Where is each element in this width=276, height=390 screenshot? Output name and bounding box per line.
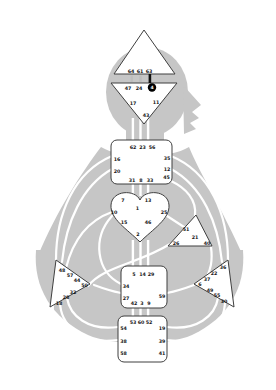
- gate-1: 1: [136, 206, 139, 211]
- gate-44: 44: [74, 278, 81, 283]
- gate-36: 36: [220, 265, 227, 270]
- gate-41: 41: [159, 351, 166, 356]
- gate-58: 58: [120, 351, 127, 356]
- gate-15: 15: [121, 220, 128, 225]
- gate-22: 22: [211, 271, 218, 276]
- gate-16: 16: [114, 157, 121, 162]
- gate-59: 59: [159, 294, 166, 299]
- bodygraph-svg: 64 61 63 47 24 17 11 43 62 23 56 16 35 2…: [0, 0, 276, 390]
- gap-strip-63-4-defined: [149, 74, 152, 83]
- gate-14: 14: [139, 272, 146, 277]
- gate-43: 43: [143, 113, 150, 118]
- gate-21: 21: [192, 235, 199, 240]
- gate-54: 54: [120, 326, 127, 331]
- gate-45: 45: [163, 175, 170, 180]
- gate-53: 53: [130, 320, 137, 325]
- gate-40: 40: [204, 241, 211, 246]
- gate-19: 19: [159, 326, 166, 331]
- gate-29: 29: [148, 272, 155, 277]
- bodygraph-figure: 64 61 63 47 24 17 11 43 62 23 56 16 35 2…: [0, 0, 276, 390]
- gate-11: 11: [153, 100, 160, 105]
- gate-17: 17: [130, 101, 137, 106]
- gate-60: 60: [138, 320, 145, 325]
- gate-46: 46: [145, 220, 152, 225]
- gate-10: 10: [111, 210, 118, 215]
- gate-24: 24: [136, 86, 143, 91]
- gate-7: 7: [121, 198, 124, 203]
- gate-61: 61: [137, 69, 144, 74]
- gate-57: 57: [67, 273, 74, 278]
- gap-strip-64-47: [131, 76, 133, 83]
- gate-23: 23: [139, 145, 146, 150]
- gate-27: 27: [123, 296, 130, 301]
- gate-28: 28: [63, 295, 70, 300]
- gate-12: 12: [164, 167, 171, 172]
- gate-37: 37: [204, 277, 211, 282]
- gate-63: 63: [146, 69, 153, 74]
- gate-32: 32: [70, 290, 77, 295]
- gate-51: 51: [183, 227, 190, 232]
- face-profile: [183, 85, 201, 134]
- gap-strip-61-24: [139, 76, 141, 83]
- gate-26: 26: [173, 241, 180, 246]
- gate-48: 48: [59, 268, 66, 273]
- gate-52: 52: [146, 320, 153, 325]
- gate-50: 50: [81, 283, 88, 288]
- gate-5: 5: [132, 272, 135, 277]
- gate-56: 56: [149, 145, 156, 150]
- gate-4: 4: [150, 85, 153, 90]
- gate-3: 3: [140, 301, 143, 306]
- gate-18: 18: [56, 301, 63, 306]
- gate-42: 42: [131, 301, 138, 306]
- head-center-shape: [114, 30, 175, 74]
- gate-25: 25: [161, 210, 168, 215]
- gate-13: 13: [145, 198, 152, 203]
- gate-20: 20: [114, 169, 121, 174]
- gate-62: 62: [130, 145, 137, 150]
- gate-64: 64: [128, 69, 135, 74]
- gate-31: 31: [129, 178, 136, 183]
- gate-35: 35: [164, 156, 171, 161]
- gate-30: 30: [221, 299, 228, 304]
- gate-39: 39: [159, 339, 166, 344]
- activated-gate-number: 4: [150, 85, 153, 90]
- gate-2: 2: [136, 232, 139, 237]
- gate-34: 34: [123, 284, 130, 289]
- gate-33: 33: [147, 178, 154, 183]
- gate-38: 38: [120, 339, 127, 344]
- gate-55: 55: [214, 293, 221, 298]
- gate-47: 47: [125, 86, 132, 91]
